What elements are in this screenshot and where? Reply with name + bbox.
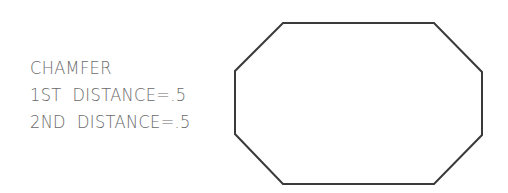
chamfered-rectangle-outline xyxy=(235,23,482,184)
chamfered-rectangle-drawing xyxy=(0,0,508,193)
